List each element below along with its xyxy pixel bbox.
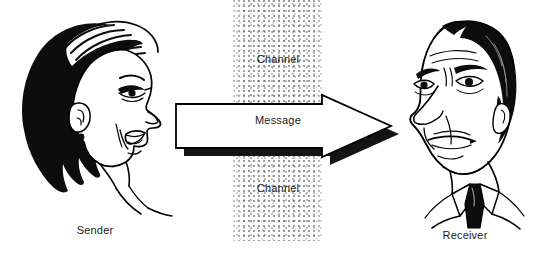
channel-label-bottom: Channel (233, 182, 323, 194)
channel-label-top: Channel (233, 53, 323, 65)
man-head-listening-icon (398, 8, 533, 230)
message-label: Message (233, 114, 323, 126)
sender-label: Sender (45, 224, 145, 236)
receiver-label: Receiver (415, 229, 515, 241)
sender-illustration (8, 6, 188, 228)
communication-diagram: Channel Message Channel Sender Receiver (0, 0, 533, 260)
woman-profile-speaking-icon (8, 6, 188, 228)
receiver-illustration (398, 8, 533, 230)
